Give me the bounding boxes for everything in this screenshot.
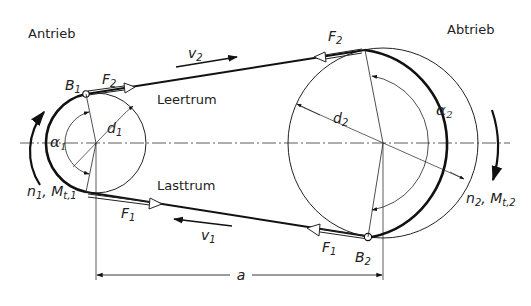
- dimension-a: a: [97, 267, 382, 283]
- rotation-arrow-drive: [30, 112, 44, 185]
- label-driven: Abtrieb: [447, 22, 494, 37]
- label-alpha1: α1: [50, 133, 67, 152]
- label-f2-left: F2: [102, 71, 116, 89]
- label-d2: d2: [333, 110, 348, 128]
- label-d1: d1: [107, 120, 122, 138]
- label-v2: v2: [188, 45, 203, 63]
- rotation-arrow-driven: [492, 110, 498, 180]
- velocity-arrow-v2: [176, 57, 237, 67]
- dimension-a-label: a: [237, 267, 246, 283]
- label-b1: B1: [65, 77, 81, 95]
- d1-leader: [73, 113, 125, 167]
- radius-line-b2: [368, 143, 383, 237]
- label-f1-right: F1: [322, 239, 336, 257]
- label-f2-right: F2: [328, 28, 342, 46]
- label-alpha2: α2: [436, 101, 453, 120]
- radius-line-b1: [86, 94, 96, 143]
- label-n2-mt2: n2, Mt,2: [466, 190, 516, 208]
- radius-line-large-top: [365, 50, 383, 143]
- belt-drive-diagram: a: [0, 0, 531, 306]
- label-b2: B2: [355, 249, 371, 267]
- velocity-arrow-v1: [174, 219, 232, 226]
- label-v1: v1: [201, 227, 216, 245]
- label-f1-left: F1: [121, 205, 135, 223]
- radius-line-small-bottom: [86, 143, 96, 192]
- label-slack-side: Leertrum: [157, 92, 217, 107]
- label-tight-side: Lasttrum: [157, 178, 215, 193]
- label-drive: Antrieb: [28, 26, 75, 41]
